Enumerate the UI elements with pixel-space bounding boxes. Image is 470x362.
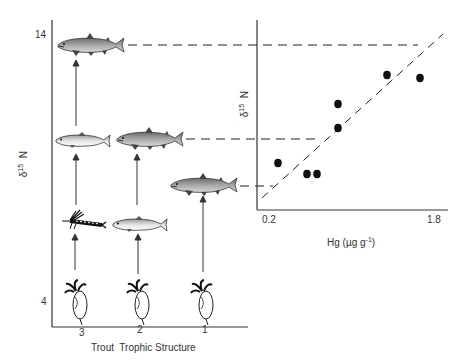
delta-symbol: δ: [18, 172, 29, 178]
forage-fish-icon: [113, 216, 167, 232]
data-point: [416, 74, 424, 82]
nitrogen-symbol: N: [18, 151, 29, 158]
mysid-icon: [62, 210, 106, 229]
data-point: [274, 159, 282, 167]
delta-symbol: δ: [239, 112, 250, 118]
x-column-3: 3: [79, 327, 85, 338]
left-x-axis-title: Trout Trophic Structure: [91, 342, 196, 353]
trend-line: [262, 34, 443, 198]
forage-fish-icon: [56, 132, 110, 148]
isotope-superscript: 15: [238, 104, 245, 112]
food-chain-arrows: [72, 60, 206, 274]
data-point: [334, 100, 342, 108]
zooplankton-icon-structure-2: [127, 280, 149, 325]
scatter-points: [274, 71, 424, 178]
data-point: [383, 71, 391, 79]
trout-icon-structure-1: [171, 173, 237, 196]
data-point: [334, 124, 342, 132]
data-point: [313, 170, 321, 178]
left-y-tick-4: 4: [41, 296, 47, 307]
zooplankton-icon-structure-3: [65, 280, 87, 325]
right-y-axis-label: δ15 N: [238, 91, 250, 117]
zooplankton-icon-structure-1: [191, 280, 213, 325]
left-y-axis-label: δ15 N: [17, 151, 29, 177]
isotope-superscript: 15: [17, 164, 24, 172]
right-x-tick-0-2: 0.2: [262, 214, 276, 225]
nitrogen-symbol: N: [239, 91, 250, 98]
hg-label: Hg (µg g: [327, 237, 366, 248]
hg-label-close: ): [372, 237, 375, 248]
data-point: [303, 170, 311, 178]
figure-graphics: [0, 0, 470, 362]
left-y-tick-14: 14: [35, 29, 46, 40]
right-x-axis-title: Hg (µg g-1): [327, 236, 375, 248]
right-x-tick-1-8: 1.8: [427, 214, 441, 225]
trout-icon-structure-2: [117, 127, 183, 150]
x-column-2: 2: [137, 324, 143, 335]
x-column-1: 1: [202, 324, 208, 335]
trout-icon-structure-3: [58, 33, 124, 56]
